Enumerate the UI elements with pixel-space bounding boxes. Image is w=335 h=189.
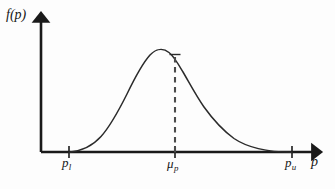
tick-label-mean: μp <box>167 157 178 170</box>
tick-label-lower-bound: pl <box>62 156 71 169</box>
tick-label-mean-var: μ <box>167 156 174 171</box>
tick-label-lower-var: p <box>62 155 69 170</box>
density-figure: f(p) p pl μp pu <box>0 0 335 189</box>
tick-label-upper-bound: pu <box>285 156 296 169</box>
tick-label-upper-sub: u <box>292 162 296 172</box>
tick-label-lower-sub: l <box>69 162 71 172</box>
density-curve <box>69 50 292 153</box>
x-axis-label: p <box>311 155 318 169</box>
y-axis-label: f(p) <box>6 8 26 22</box>
tick-label-mean-sub: p <box>174 163 178 173</box>
tick-label-upper-var: p <box>285 155 292 170</box>
